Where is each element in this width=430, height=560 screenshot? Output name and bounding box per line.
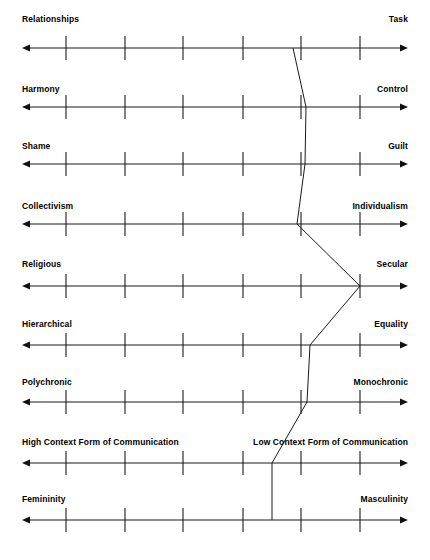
axis-arrow-right-2 [400, 160, 408, 167]
cultural-dimensions-chart: RelationshipsTaskHarmonyControlShameGuil… [0, 0, 430, 560]
right-pole-label-row-6: Monochronic [354, 377, 408, 388]
axis-arrow-left-1 [22, 103, 30, 110]
cultural-profile-polyline [272, 48, 360, 520]
axis-arrow-right-5 [400, 341, 408, 348]
left-pole-label-row-7: High Context Form of Communication [22, 437, 179, 448]
axis-arrow-left-0 [22, 44, 30, 51]
axis-arrow-right-6 [400, 398, 408, 405]
axis-arrow-left-2 [22, 160, 30, 167]
axis-arrow-right-1 [400, 103, 408, 110]
right-pole-label-row-2: Guilt [388, 141, 408, 152]
right-pole-label-row-4: Secular [377, 259, 408, 270]
left-pole-label-row-2: Shame [22, 141, 50, 152]
right-pole-label-row-1: Control [377, 84, 408, 95]
left-pole-label-row-5: Hierarchical [22, 319, 72, 330]
axis-arrow-left-7 [22, 459, 30, 466]
axis-arrow-left-6 [22, 398, 30, 405]
right-pole-label-row-3: Individualism [352, 201, 408, 212]
left-pole-label-row-4: Religious [22, 259, 61, 270]
axis-arrow-left-8 [22, 516, 30, 523]
axis-arrow-right-4 [400, 282, 408, 289]
right-pole-label-row-0: Task [389, 14, 408, 25]
axis-arrow-left-3 [22, 220, 30, 227]
left-pole-label-row-6: Polychronic [22, 377, 72, 388]
axis-arrow-right-0 [400, 44, 408, 51]
right-pole-label-row-5: Equality [374, 319, 408, 330]
left-pole-label-row-8: Femininity [22, 494, 66, 505]
axis-arrow-right-7 [400, 459, 408, 466]
axis-arrow-right-3 [400, 220, 408, 227]
axis-arrow-left-4 [22, 282, 30, 289]
left-pole-label-row-3: Collectivism [22, 201, 73, 212]
left-pole-label-row-1: Harmony [22, 84, 60, 95]
axis-arrow-left-5 [22, 341, 30, 348]
axis-arrow-right-8 [400, 516, 408, 523]
left-pole-label-row-0: Relationships [22, 14, 79, 25]
axes-and-profile-line [0, 0, 430, 560]
right-pole-label-row-8: Masculinity [361, 494, 408, 505]
right-pole-label-row-7: Low Context Form of Communication [253, 437, 408, 448]
